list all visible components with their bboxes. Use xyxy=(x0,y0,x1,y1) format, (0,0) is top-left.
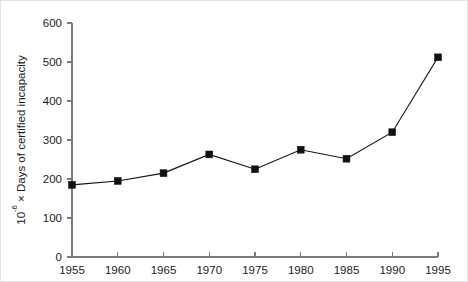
x-tick-label: 1990 xyxy=(379,264,405,276)
x-tick-label: 1980 xyxy=(288,264,314,276)
x-tick-label: 1975 xyxy=(242,264,268,276)
y-tick-group: 0100200300400500600 xyxy=(43,17,72,263)
data-point-marker xyxy=(435,54,442,61)
y-axis-title-text: 10-6 × Days of certified incapacity xyxy=(10,55,28,225)
y-tick-label: 0 xyxy=(56,251,62,263)
x-tick-label: 1985 xyxy=(334,264,360,276)
data-point-marker xyxy=(389,129,396,136)
x-tick-label: 1995 xyxy=(425,264,451,276)
x-tick-label: 1965 xyxy=(151,264,177,276)
line-chart: 0100200300400500600 19551960196519701975… xyxy=(1,1,468,282)
x-tick-label: 1960 xyxy=(105,264,131,276)
data-point-marker xyxy=(343,155,350,162)
y-tick-label: 600 xyxy=(43,17,62,29)
data-point-marker xyxy=(69,181,76,188)
x-tick-group: 195519601965197019751980198519901995 xyxy=(59,252,451,276)
y-tick-label: 200 xyxy=(43,173,62,185)
chart-page: 0100200300400500600 19551960196519701975… xyxy=(0,0,468,282)
data-point-marker xyxy=(252,166,259,173)
x-tick-label: 1955 xyxy=(59,264,85,276)
y-tick-label: 300 xyxy=(43,134,62,146)
y-axis-title-rest: × Days of certified incapacity xyxy=(15,55,27,205)
x-tick-label: 1970 xyxy=(196,264,222,276)
data-point-marker xyxy=(114,178,121,185)
y-axis-title-exponent: -6 xyxy=(10,205,19,212)
y-tick-label: 100 xyxy=(43,212,62,224)
data-point-marker xyxy=(206,151,213,158)
y-axis-title-base: 10 xyxy=(15,212,27,225)
y-tick-label: 500 xyxy=(43,56,62,68)
y-axis-title: 10-6 × Days of certified incapacity xyxy=(10,55,28,225)
series-marker-group xyxy=(69,54,442,188)
y-tick-label: 400 xyxy=(43,95,62,107)
data-point-marker xyxy=(297,146,304,153)
series-group xyxy=(69,54,442,188)
data-point-marker xyxy=(160,170,167,177)
